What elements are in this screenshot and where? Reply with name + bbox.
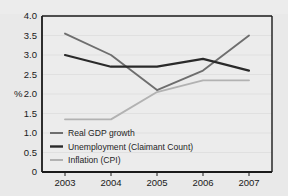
legend-label: Inflation (CPI): [68, 155, 121, 165]
legend-label: Real GDP growth: [68, 128, 135, 138]
x-tick-label: 2003: [54, 177, 75, 188]
legend-label: Unemployment (Claimant Count): [68, 142, 193, 152]
y-tick-label: 2.5: [24, 69, 37, 80]
x-tick-label: 2004: [100, 177, 121, 188]
y-tick-label: 3.5: [24, 30, 37, 41]
y-tick-label: 2.0: [24, 88, 37, 99]
y-tick-label: 4.0: [24, 10, 37, 21]
x-tick-label: 2007: [238, 177, 259, 188]
y-tick-label: 3.0: [24, 49, 37, 60]
line-chart: 4.03.53.02.52.01.51.00.50%20032004200520…: [0, 0, 288, 196]
y-axis-unit-label: %: [14, 88, 23, 99]
y-tick-label: 1.0: [24, 127, 37, 138]
y-tick-label: 0.5: [24, 147, 37, 158]
x-tick-label: 2006: [192, 177, 213, 188]
x-tick-label: 2005: [146, 177, 167, 188]
y-tick-label: 1.5: [24, 108, 37, 119]
y-tick-label: 0: [32, 166, 37, 177]
chart-container: 4.03.53.02.52.01.51.00.50%20032004200520…: [0, 0, 288, 196]
